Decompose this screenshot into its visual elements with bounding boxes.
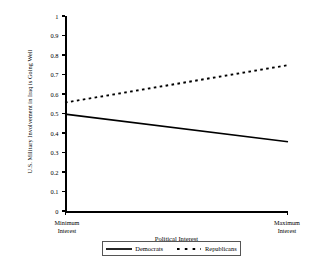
- x-axis-tick-min: [65, 211, 66, 215]
- x-tick-label-max: Maximum Interest: [264, 219, 310, 234]
- series-line-democrats: [65, 114, 288, 142]
- x-tick-label-min: Minimum Interest: [45, 219, 89, 234]
- y-axis-tick-label: 0.4: [51, 129, 59, 136]
- chart-figure: U.S. Military Involvement in Iraq is Goi…: [0, 0, 314, 267]
- plot-area: 00.10.20.30.40.50.60.70.80.91 Minimum In…: [65, 16, 288, 211]
- y-axis-tick-label: 0.7: [51, 71, 59, 78]
- legend-item-democrats: Democrats: [106, 245, 163, 253]
- x-tick-label-min-line2: Interest: [58, 227, 77, 234]
- y-axis-tick-label: 0: [55, 207, 58, 214]
- x-axis-line: [65, 211, 288, 213]
- y-axis-tick-label: 1: [55, 13, 58, 20]
- chart-legend: Democrats Republicans: [102, 241, 241, 256]
- y-axis-tick-label: 0.6: [51, 90, 59, 97]
- y-axis-tick-label: 0.2: [51, 168, 59, 175]
- x-tick-label-max-line1: Maximum: [274, 219, 300, 226]
- series-line-republicans: [65, 65, 288, 102]
- x-axis-tick-max: [287, 211, 288, 215]
- y-axis-tick-label: 0.5: [51, 110, 59, 117]
- legend-swatch-dotted: [176, 245, 202, 253]
- legend-label-democrats: Democrats: [135, 245, 163, 252]
- y-axis-tick-label: 0.9: [51, 32, 59, 39]
- legend-swatch-solid: [106, 245, 132, 253]
- y-axis-title: U.S. Military Involvement in Iraq is Goi…: [26, 17, 33, 207]
- legend-label-republicans: Republicans: [205, 245, 237, 252]
- y-axis-tick-label: 0.1: [51, 188, 59, 195]
- x-tick-label-max-line2: Interest: [278, 227, 297, 234]
- legend-item-republicans: Republicans: [176, 245, 237, 253]
- y-axis-tick-label: 0.8: [51, 51, 59, 58]
- y-axis-tick-label: 0.3: [51, 149, 59, 156]
- series-lines: [65, 16, 288, 211]
- x-tick-label-min-line1: Minimum: [55, 219, 80, 226]
